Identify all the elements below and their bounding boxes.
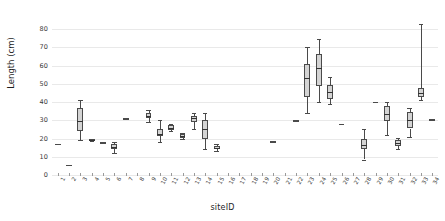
- boxplot-min-cap-15: [214, 151, 218, 152]
- boxplot-min-cap-31: [396, 149, 400, 150]
- boxplot-median-32: [407, 120, 413, 121]
- boxplot-min-cap-10: [158, 142, 162, 143]
- boxplot-min-cap-13: [192, 129, 196, 130]
- boxplot-min-cap-6: [112, 153, 116, 154]
- x-tick-mark-30: [387, 173, 388, 176]
- y-tick-label-0: 0: [44, 171, 48, 179]
- boxplot-single-1: [55, 144, 61, 145]
- x-tick-label-7: 7: [127, 176, 134, 182]
- boxplot-min-cap-23: [305, 113, 309, 114]
- boxplot-single-34: [429, 119, 435, 120]
- y-tick-label-50: 50: [40, 80, 48, 88]
- x-tick-mark-33: [421, 173, 422, 176]
- x-tick-mark-10: [160, 173, 161, 176]
- plot-area: [52, 20, 438, 175]
- boxplot-median-9: [146, 116, 152, 117]
- x-tick-mark-17: [239, 173, 240, 176]
- boxplot-lower-whisker-24: [319, 86, 320, 102]
- x-tick-mark-2: [69, 173, 70, 176]
- x-tick-label-34: 34: [432, 176, 441, 185]
- x-tick-mark-16: [228, 173, 229, 176]
- x-tick-label-13: 13: [194, 176, 203, 185]
- boxplot-median-30: [384, 114, 390, 115]
- boxplot-upper-whisker-25: [330, 77, 331, 85]
- x-tick-label-32: 32: [409, 176, 418, 185]
- y-tick-label-20: 20: [40, 135, 48, 143]
- x-tick-mark-11: [171, 173, 172, 176]
- x-tick-mark-15: [217, 173, 218, 176]
- boxplot-max-cap-24: [317, 39, 321, 40]
- boxplot-single-5: [100, 142, 106, 143]
- boxplot-median-3: [77, 121, 83, 122]
- x-tick-mark-29: [376, 173, 377, 176]
- x-tick-mark-28: [364, 173, 365, 176]
- x-tick-label-11: 11: [171, 176, 180, 185]
- y-axis-tick-labels: 01020304050607080: [0, 20, 48, 175]
- x-tick-mark-6: [114, 173, 115, 176]
- x-tick-mark-13: [194, 173, 195, 176]
- boxplot-single-22: [293, 120, 299, 121]
- boxplot-max-cap-23: [305, 47, 309, 48]
- x-tick-mark-7: [126, 173, 127, 176]
- x-tick-label-8: 8: [138, 176, 145, 182]
- boxplot-max-cap-33: [419, 24, 423, 25]
- y-tick-label-40: 40: [40, 98, 48, 106]
- x-tick-label-24: 24: [318, 176, 327, 185]
- boxplot-max-cap-32: [407, 108, 411, 109]
- boxplot-min-cap-24: [317, 102, 321, 103]
- x-tick-label-20: 20: [273, 176, 282, 185]
- x-tick-label-27: 27: [352, 176, 361, 185]
- boxplot-median-6: [111, 147, 117, 148]
- boxplot-lower-whisker-28: [364, 149, 365, 159]
- x-tick-label-33: 33: [421, 176, 430, 185]
- x-tick-mark-14: [205, 173, 206, 176]
- boxplot-box-24: [316, 54, 322, 86]
- x-tick-mark-23: [307, 173, 308, 176]
- boxplot-single-26: [339, 124, 345, 125]
- boxplot-max-cap-10: [158, 120, 162, 121]
- x-tick-label-3: 3: [82, 176, 89, 182]
- x-tick-mark-24: [319, 173, 320, 176]
- x-tick-label-16: 16: [228, 176, 237, 185]
- boxplot-median-33: [418, 93, 424, 94]
- x-tick-mark-20: [273, 173, 274, 176]
- x-axis-tick-labels: 1234567891011121314151617181920212223242…: [52, 176, 438, 198]
- boxplot-median-23: [304, 78, 310, 79]
- boxplot-min-cap-12: [180, 139, 184, 140]
- gridline-40: [52, 102, 438, 103]
- boxplot-max-cap-30: [385, 102, 389, 103]
- x-tick-mark-34: [432, 173, 433, 176]
- x-tick-mark-25: [330, 173, 331, 176]
- boxplot-median-24: [316, 68, 322, 69]
- boxplot-median-12: [180, 136, 186, 137]
- boxplot-single-2: [66, 165, 72, 166]
- boxplot-min-cap-28: [362, 160, 366, 161]
- boxplot-lower-whisker-30: [387, 121, 388, 135]
- boxplot-min-cap-33: [419, 100, 423, 101]
- gridline-60: [52, 66, 438, 67]
- y-tick-label-70: 70: [40, 43, 48, 51]
- x-tick-mark-3: [80, 173, 81, 176]
- boxplot-single-7: [123, 118, 129, 119]
- x-tick-label-17: 17: [239, 176, 248, 185]
- x-tick-mark-5: [103, 173, 104, 176]
- boxplot-max-cap-9: [146, 110, 150, 111]
- x-tick-mark-8: [137, 173, 138, 176]
- boxplot-lower-whisker-3: [80, 131, 81, 140]
- boxplot-upper-whisker-28: [364, 129, 365, 139]
- x-tick-label-1: 1: [59, 176, 66, 182]
- boxplot-min-cap-11: [169, 131, 173, 132]
- boxplot-upper-whisker-24: [319, 39, 320, 54]
- boxplot-single-29: [373, 102, 379, 103]
- x-tick-label-26: 26: [341, 176, 350, 185]
- boxplot-box-23: [304, 64, 310, 97]
- boxplot-lower-whisker-13: [194, 122, 195, 129]
- x-tick-label-2: 2: [70, 176, 77, 182]
- x-tick-mark-21: [285, 173, 286, 176]
- y-tick-label-60: 60: [40, 62, 48, 70]
- boxplot-min-cap-9: [146, 122, 150, 123]
- boxplot-lower-whisker-23: [307, 97, 308, 113]
- boxplot-chart: Length (cm) 01020304050607080 1234567891…: [0, 0, 445, 221]
- boxplot-box-3: [77, 108, 83, 131]
- boxplot-min-cap-32: [407, 137, 411, 138]
